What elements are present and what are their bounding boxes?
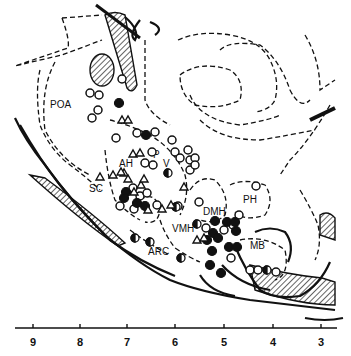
label-sc: SC [89,183,103,194]
label-vmh: VMH [172,223,194,234]
label-v: V [163,158,170,169]
label-arc: ARC [148,246,169,257]
label-mb: MB [250,240,265,251]
axis-tick-labels: 9 8 7 6 5 4 3 [30,336,324,348]
atlas-diagram: POA P V AH SC PH DMH VMH MB ARC [0,0,351,356]
tick-label: 5 [221,336,227,348]
tick-label: 4 [270,336,277,348]
label-ph: PH [243,194,257,205]
tick-label: 7 [124,336,130,348]
tick-label: 9 [30,336,36,348]
label-poa: POA [50,99,71,110]
tick-label: 8 [77,336,83,348]
x-axis [15,324,337,328]
tick-label: 3 [318,336,324,348]
tick-label: 6 [172,336,178,348]
label-dmh: DMH [203,206,226,217]
